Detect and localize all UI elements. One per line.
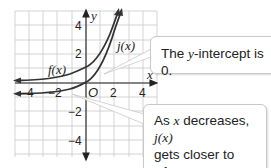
x-tick-4: 4 [139,86,146,100]
callout-text: gets closer to −1. [154,147,234,168]
callout-asymptote-pointer [72,94,144,124]
x-tick-2: 2 [110,86,117,100]
callout-text: As [154,113,174,128]
callout-y-intercept: The y-intercept is 0. [150,36,271,74]
y-tick-4: 4 [75,19,82,33]
axes [15,10,157,160]
curve-j [18,12,121,94]
callout-func: j(x) [154,130,173,145]
origin-label: O [88,85,98,100]
callout-text: The [161,46,188,61]
callout-asymptote: As x decreases, j(x) gets closer to −1. [143,104,267,168]
curves [18,12,121,94]
label-j: j(x) [115,38,135,53]
x-tick-neg2: −2 [48,86,62,100]
y-tick-neg4: −4 [68,134,82,148]
y-tick-neg2: −2 [68,105,82,119]
y-tick-2: 2 [75,47,82,61]
callout-text: decreases, [180,113,250,128]
x-tick-neg4: −4 [20,86,34,100]
label-f: f(x) [48,62,66,77]
curve-f [18,12,118,81]
y-axis-label: y [89,8,97,23]
